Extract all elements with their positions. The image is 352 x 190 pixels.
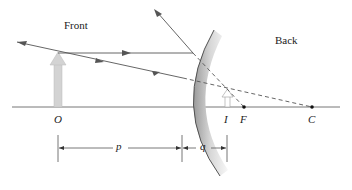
dim-arrow-icon <box>183 146 188 150</box>
dim-arrow-icon <box>59 146 64 150</box>
ray-arrow-icon <box>17 41 27 46</box>
object-distance-label: p <box>116 140 122 152</box>
dim-arrow-icon <box>176 146 181 150</box>
reflected-ray-1 <box>157 12 193 53</box>
image-label: I <box>224 113 228 125</box>
back-label: Back <box>275 34 298 46</box>
dim-arrow-icon <box>221 146 226 150</box>
ray-diagram <box>0 0 352 190</box>
focal-point-dot <box>242 105 246 109</box>
image-arrow <box>222 89 233 107</box>
focal-point-label: F <box>240 113 247 125</box>
convex-mirror <box>193 30 228 176</box>
object-arrow <box>50 52 66 107</box>
ray-arrow-icon <box>122 50 131 56</box>
object-label: O <box>54 113 62 125</box>
center-of-curvature-label: C <box>308 113 315 125</box>
front-label: Front <box>64 19 88 31</box>
ray-arrow-icon <box>152 71 160 76</box>
center-point-dot <box>310 105 314 109</box>
image-distance-label: q <box>200 140 206 152</box>
